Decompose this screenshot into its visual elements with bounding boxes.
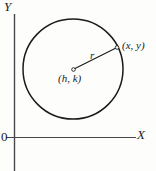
center-hk-label: (h, k) <box>58 73 81 84</box>
radius-label: r <box>90 50 94 61</box>
center-point-marker <box>72 68 76 72</box>
radius-segment <box>74 48 116 69</box>
y-axis-label: Y <box>4 0 11 13</box>
x-axis-label: X <box>137 128 145 141</box>
origin-label: 0 <box>1 130 8 143</box>
diagram-canvas <box>0 0 156 171</box>
circle-diagram-figure: Y X 0 (x, y) (h, k) r <box>0 0 156 171</box>
circle-point-marker <box>115 46 119 50</box>
point-xy-label: (x, y) <box>122 40 145 51</box>
